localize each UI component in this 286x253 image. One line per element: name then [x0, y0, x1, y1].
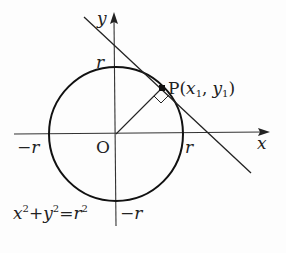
tick-pos-y: r — [96, 52, 105, 72]
x-axis — [14, 132, 264, 134]
point-p — [159, 85, 165, 91]
tick-pos-x: r — [185, 137, 194, 157]
point-p-label: P(x1,y1) — [168, 78, 235, 99]
right-angle-marker — [154, 95, 169, 103]
y-axis-label: y — [96, 8, 107, 28]
tick-neg-y: −r — [120, 203, 143, 223]
origin-label: O — [96, 137, 110, 157]
radius-op — [116, 88, 162, 134]
circle-equation: x2+y2=r2 — [13, 203, 88, 223]
circle-tangent-diagram: y x O r r −r −r P(x1,y1) x2+y2=r2 — [0, 0, 286, 253]
x-axis-label: x — [257, 133, 267, 153]
tick-neg-x: −r — [17, 137, 40, 157]
y-axis — [114, 20, 116, 226]
